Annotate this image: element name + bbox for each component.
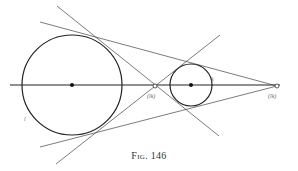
internal-tangent-descending [57,6,219,136]
small-circle-center-dot [189,83,193,87]
label-internal-point: (lk) [147,93,155,100]
external-tangent-upper [40,22,277,86]
internal-point-marker [153,84,157,88]
tangent-circles-diagram: l k (lk) (lk) [0,0,298,171]
label-external-point: (lk) [268,93,276,100]
external-point-marker [275,84,279,88]
external-tangent-lower [40,86,277,147]
internal-tangent-ascending [56,35,220,164]
label-small-circle: k [211,76,214,82]
large-circle-center-dot [70,83,74,87]
figure-caption: Fig. 146 [0,150,298,161]
label-large-circle: l [24,116,26,122]
